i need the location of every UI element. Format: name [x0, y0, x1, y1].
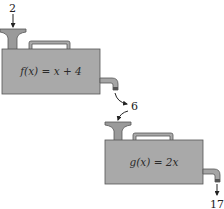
intermediate-value-label: 6	[131, 100, 138, 113]
transfer-arrow-icon	[115, 93, 127, 104]
output-value-label: 17	[210, 198, 224, 209]
input-value-label: 2	[9, 2, 16, 15]
machine-f-formula: f(x) = x + 4	[19, 65, 82, 77]
machine-f: f(x) = x + 4	[0, 29, 118, 94]
funnel-icon	[105, 122, 131, 141]
machine-g: g(x) = 2x	[105, 122, 220, 184]
function-machine-diagram: 2 f(x) = x + 4 6 g(x) = 2x 17	[0, 0, 224, 209]
machine-g-formula: g(x) = 2x	[130, 156, 179, 168]
funnel-icon	[0, 29, 26, 50]
transfer-arrow-icon	[118, 111, 128, 120]
